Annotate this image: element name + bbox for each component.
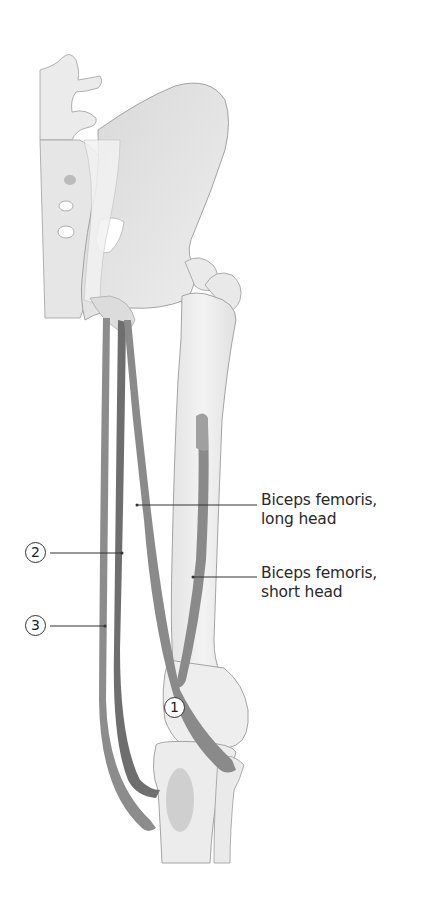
callout-3: 3: [25, 615, 46, 636]
label-biceps-femoris-short-head: Biceps femoris, short head: [261, 564, 377, 602]
callout-2: 2: [25, 542, 46, 563]
callout-1: 1: [164, 697, 185, 718]
anatomy-illustration: [0, 0, 423, 905]
label-biceps-short-line2: short head: [261, 583, 377, 602]
label-biceps-femoris-long-head: Biceps femoris, long head: [261, 491, 377, 529]
pelvis: [81, 83, 228, 331]
label-biceps-long-line2: long head: [261, 510, 377, 529]
anatomy-figure: Biceps femoris, long head Biceps femoris…: [0, 0, 423, 905]
label-biceps-long-line1: Biceps femoris,: [261, 491, 377, 510]
label-biceps-short-line1: Biceps femoris,: [261, 564, 377, 583]
